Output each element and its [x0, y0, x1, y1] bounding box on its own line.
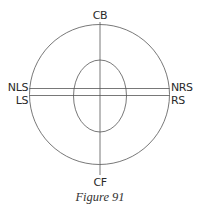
label-nls: NLS	[8, 81, 29, 94]
label-nrs: NRS	[171, 81, 193, 94]
label-rs: RS	[171, 94, 185, 107]
label-ls: LS	[16, 94, 29, 107]
label-cb: CB	[93, 9, 107, 22]
outer-circle	[30, 25, 170, 165]
figure-caption: Figure 91	[74, 190, 124, 204]
label-cf: CF	[93, 176, 106, 189]
figure-diagram: CB CF NLS LS NRS RS Figure 91	[0, 0, 201, 204]
